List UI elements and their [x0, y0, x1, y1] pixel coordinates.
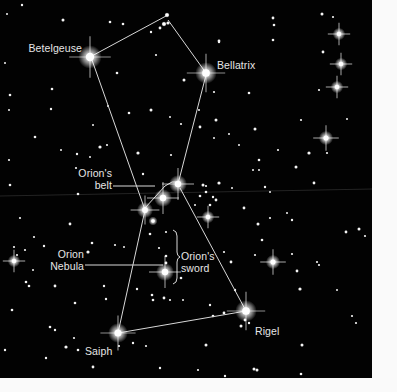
background-star: [69, 223, 72, 226]
background-star: [122, 23, 125, 26]
bright-stars: [3, 12, 352, 350]
star-chart: Betelgeuse Bellatrix Orion's belt Orion …: [0, 0, 397, 392]
background-star: [272, 17, 275, 20]
background-star: [318, 89, 320, 91]
star-right-4: [313, 125, 339, 151]
background-star: [258, 169, 260, 171]
label-orions-belt-line2: belt: [68, 179, 112, 191]
background-star: [345, 231, 348, 234]
label-orions-sword-line2: sword: [181, 262, 215, 274]
background-star: [253, 368, 256, 371]
background-star: [300, 119, 302, 121]
background-star: [313, 182, 316, 185]
background-star: [45, 357, 47, 359]
background-star: [286, 212, 288, 214]
background-star: [109, 21, 112, 24]
background-star: [60, 149, 62, 151]
background-star: [182, 299, 184, 301]
background-star: [213, 137, 215, 139]
background-star: [33, 236, 35, 238]
star-meissa-companion: [161, 21, 166, 26]
background-star: [86, 250, 89, 253]
background-star: [272, 39, 275, 42]
star-core: [160, 195, 166, 201]
star-right-1: [328, 23, 350, 45]
background-star: [243, 207, 246, 210]
background-star: [32, 269, 34, 271]
sword-bracket: [173, 230, 180, 284]
background-star: [264, 186, 266, 188]
background-star: [322, 51, 325, 54]
background-star: [298, 287, 301, 290]
background-star: [11, 309, 14, 312]
background-star: [150, 31, 152, 33]
background-star: [202, 184, 205, 187]
background-star: [132, 342, 134, 344]
background-star: [150, 109, 153, 112]
scan-artifact-line: [0, 189, 372, 196]
star-right-2: [330, 53, 352, 75]
background-star: [205, 185, 207, 187]
background-star: [223, 312, 226, 315]
background-star: [54, 285, 57, 288]
background-star: [9, 184, 12, 187]
background-star: [364, 235, 366, 237]
background-star: [62, 19, 65, 22]
background-star: [64, 345, 67, 348]
label-rigel: Rigel: [255, 325, 279, 337]
background-star: [159, 367, 161, 369]
label-orion-nebula: Orion Nebula: [38, 248, 84, 272]
background-star: [21, 4, 23, 6]
background-star: [301, 344, 304, 347]
background-star: [223, 251, 225, 253]
background-star: [54, 329, 56, 331]
star-core: [151, 219, 155, 223]
background-star: [326, 152, 328, 154]
star-orion-nebula: [149, 256, 181, 288]
star-left: [3, 250, 25, 272]
background-star: [256, 369, 259, 372]
background-star: [89, 156, 91, 158]
background-star: [346, 118, 348, 120]
background-star: [50, 108, 52, 110]
background-star: [77, 193, 80, 196]
label-orions-belt-line1: Orion's: [68, 167, 112, 179]
background-star: [254, 254, 256, 256]
star-core: [270, 259, 275, 264]
background-star: [269, 191, 271, 193]
star-right-3: [326, 76, 348, 98]
star-core: [323, 135, 328, 140]
background-star: [209, 204, 212, 207]
background-star: [34, 136, 37, 139]
background-star: [170, 154, 172, 156]
background-star: [318, 264, 320, 266]
background-star: [128, 112, 131, 115]
background-star: [273, 24, 276, 27]
constellation-overlay: [0, 0, 397, 392]
background-star: [105, 298, 107, 300]
background-star: [321, 13, 324, 16]
outline-bellatrix-belt: [178, 75, 206, 184]
background-star: [254, 128, 257, 131]
background-star: [152, 299, 155, 302]
background-star: [145, 345, 147, 347]
star-core: [206, 215, 210, 219]
background-star: [43, 245, 45, 247]
background-star: [136, 288, 138, 290]
background-star: [205, 344, 208, 347]
background-star: [8, 159, 10, 161]
background-star: [295, 166, 298, 169]
star-belt-companion: [149, 217, 158, 226]
background-star: [238, 144, 240, 146]
background-star: [209, 304, 211, 306]
background-star: [51, 88, 54, 91]
background-star: [169, 116, 171, 118]
star-core: [86, 53, 94, 61]
background-star: [252, 169, 254, 171]
background-star: [24, 249, 26, 251]
star-core: [165, 13, 169, 17]
background-star: [269, 217, 271, 219]
star-core: [337, 32, 341, 36]
background-star: [159, 27, 162, 30]
background-star: [106, 144, 108, 146]
